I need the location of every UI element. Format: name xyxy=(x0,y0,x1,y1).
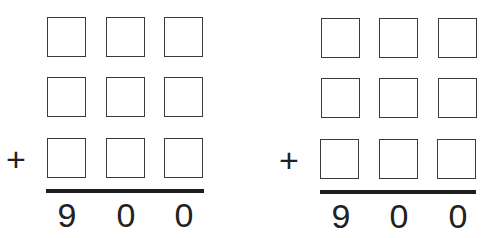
result-digit-1: 9 xyxy=(47,198,87,232)
sum-rule xyxy=(46,189,204,193)
digit-box-r3-c1[interactable] xyxy=(320,139,359,179)
result-digit-2: 0 xyxy=(379,199,419,233)
digit-box-r2-c3[interactable] xyxy=(438,78,477,118)
result-digit-2: 0 xyxy=(106,198,146,232)
sum-rule xyxy=(320,190,476,194)
digit-box-r3-c3[interactable] xyxy=(164,138,203,178)
digit-box-r1-c1[interactable] xyxy=(321,18,360,58)
digit-box-r2-c3[interactable] xyxy=(164,77,203,117)
digit-box-r3-c1[interactable] xyxy=(47,138,86,178)
digit-box-r1-c3[interactable] xyxy=(438,18,477,58)
plus-sign: + xyxy=(279,143,299,177)
digit-box-r3-c3[interactable] xyxy=(437,139,476,179)
plus-sign: + xyxy=(6,142,26,176)
digit-box-r1-c3[interactable] xyxy=(164,17,203,57)
result-digit-3: 0 xyxy=(164,198,204,232)
digit-box-r2-c2[interactable] xyxy=(379,78,418,118)
digit-box-r2-c1[interactable] xyxy=(47,77,86,117)
digit-box-r2-c1[interactable] xyxy=(321,78,360,118)
digit-box-r1-c2[interactable] xyxy=(379,18,418,58)
result-digit-3: 0 xyxy=(438,199,478,233)
digit-box-r3-c2[interactable] xyxy=(379,139,418,179)
digit-box-r3-c2[interactable] xyxy=(106,138,145,178)
digit-box-r1-c2[interactable] xyxy=(106,17,145,57)
result-digit-1: 9 xyxy=(321,199,361,233)
addition-problem-1: + 9 0 0 xyxy=(0,0,243,238)
digit-box-r1-c1[interactable] xyxy=(47,17,86,57)
addition-problem-2: + 9 0 0 xyxy=(243,0,486,238)
digit-box-r2-c2[interactable] xyxy=(106,77,145,117)
